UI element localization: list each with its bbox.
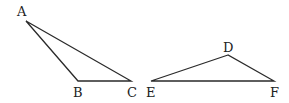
triangle-def (151, 55, 274, 81)
vertex-label-f: F (270, 85, 279, 100)
triangles-diagram: A B C D E F (0, 0, 289, 103)
vertex-label-c: C (127, 85, 137, 100)
vertex-label-a: A (16, 4, 27, 19)
vertex-label-b: B (73, 85, 83, 100)
triangle-abc (26, 21, 131, 81)
vertex-label-d: D (223, 40, 233, 55)
vertex-label-e: E (146, 85, 156, 100)
